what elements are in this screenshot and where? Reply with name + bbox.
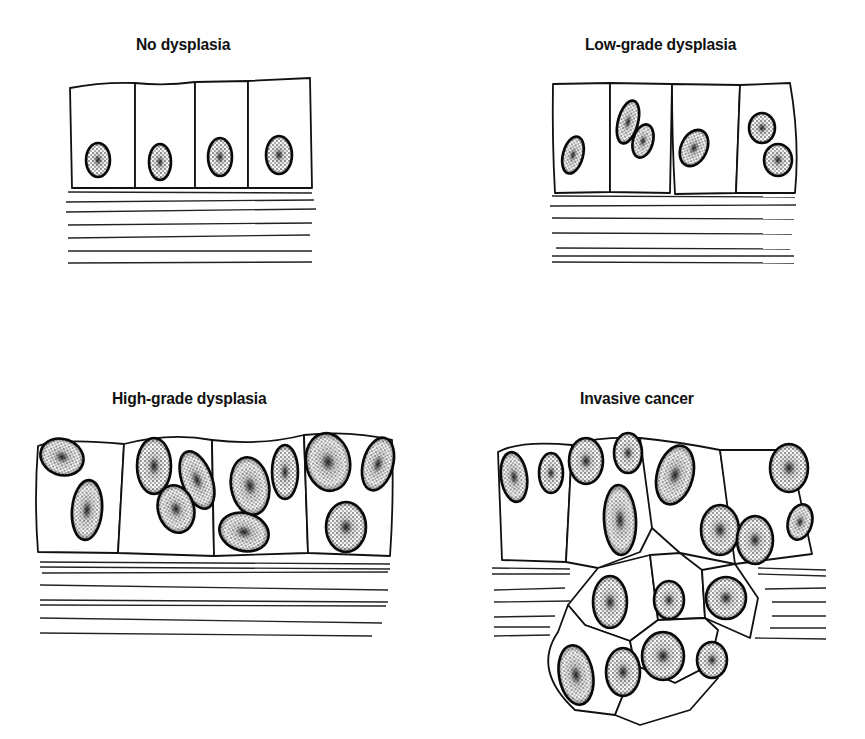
panel-high-grade-dysplasia: High-grade dysplasia (0, 380, 420, 680)
panel-invasive-cancer: Invasive cancer (480, 380, 865, 739)
invasive-cancer-illustration (480, 380, 865, 739)
panel-low-grade-dysplasia: Low-grade dysplasia (0, 0, 865, 300)
epithelium-high-grade-illustration (0, 380, 420, 680)
epithelium-low-grade-illustration (0, 0, 865, 300)
basement-membrane-fibers (550, 196, 796, 263)
basement-membrane-fibers (40, 562, 390, 636)
